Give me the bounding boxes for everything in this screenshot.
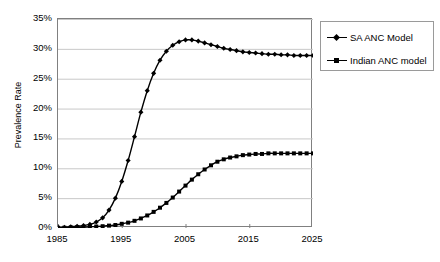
series-line	[58, 40, 313, 228]
legend-marker-diamond-icon	[327, 33, 347, 43]
data-point-marker	[139, 216, 143, 220]
x-tick-label: 1995	[96, 233, 146, 244]
data-point-marker	[285, 52, 290, 57]
data-point-marker	[291, 53, 296, 58]
data-point-marker	[247, 153, 251, 157]
data-point-marker	[196, 39, 201, 44]
data-point-marker	[69, 225, 73, 228]
data-point-marker	[158, 206, 162, 210]
legend-label: SA ANC Model	[350, 32, 413, 43]
data-point-marker	[75, 225, 79, 228]
data-point-marker	[203, 167, 207, 171]
data-point-marker	[126, 221, 130, 225]
series-sa-anc-model	[58, 37, 313, 228]
data-point-marker	[133, 219, 137, 223]
data-point-marker	[310, 53, 313, 58]
data-point-marker	[272, 52, 277, 57]
data-point-marker	[241, 153, 245, 157]
data-point-marker	[62, 226, 66, 228]
prevalence-rate-line-chart: Prevalence Rate 0%5%10%15%20%25%30%35% 1…	[0, 0, 440, 262]
data-point-marker	[215, 44, 220, 49]
data-point-marker	[254, 152, 258, 156]
data-point-marker	[132, 134, 137, 139]
data-point-marker	[221, 46, 226, 51]
data-point-marker	[107, 224, 111, 228]
data-point-marker	[138, 110, 143, 115]
data-point-marker	[311, 151, 313, 155]
data-point-marker	[164, 201, 168, 205]
x-tick-label: 2005	[160, 233, 210, 244]
data-point-marker	[189, 37, 194, 42]
data-point-marker	[259, 51, 264, 56]
data-point-marker	[152, 210, 156, 214]
data-point-marker	[209, 163, 213, 167]
series-indian-anc-model	[58, 151, 313, 228]
data-point-marker	[184, 184, 188, 188]
legend-item-indian-anc-model: Indian ANC model	[327, 55, 427, 66]
chart-legend: SA ANC Model Indian ANC model	[320, 21, 434, 71]
data-point-marker	[177, 190, 181, 194]
data-point-marker	[88, 225, 92, 228]
data-point-marker	[101, 224, 105, 228]
data-point-marker	[273, 151, 277, 155]
data-point-marker	[58, 226, 60, 228]
data-point-marker	[279, 151, 283, 155]
series-line	[58, 153, 313, 227]
data-point-marker	[126, 158, 131, 163]
data-point-marker	[94, 225, 98, 228]
data-point-marker	[177, 39, 182, 44]
data-point-marker	[298, 53, 303, 58]
data-point-marker	[298, 151, 302, 155]
data-point-marker	[228, 47, 233, 52]
data-point-marker	[113, 223, 117, 227]
data-point-marker	[266, 151, 270, 155]
data-point-marker	[247, 50, 252, 55]
data-point-marker	[190, 178, 194, 182]
data-point-marker	[305, 151, 309, 155]
data-point-marker	[304, 53, 309, 58]
data-point-marker	[253, 50, 258, 55]
legend-label: Indian ANC model	[350, 55, 427, 66]
data-point-marker	[196, 172, 200, 176]
data-point-marker	[113, 196, 118, 201]
data-point-marker	[202, 40, 207, 45]
legend-marker-square-icon	[327, 56, 347, 66]
data-point-marker	[292, 151, 296, 155]
plot-area	[57, 18, 312, 227]
data-point-marker	[145, 213, 149, 217]
data-point-marker	[82, 225, 86, 228]
data-point-marker	[228, 156, 232, 160]
data-point-marker	[145, 88, 150, 93]
data-point-marker	[120, 222, 124, 226]
data-point-marker	[151, 71, 156, 76]
data-point-marker	[171, 196, 175, 200]
data-point-marker	[286, 151, 290, 155]
data-point-marker	[279, 52, 284, 57]
x-tick-label: 2015	[223, 233, 273, 244]
x-tick-label: 1985	[32, 233, 82, 244]
data-point-marker	[266, 52, 271, 57]
data-point-marker	[215, 160, 219, 164]
data-point-marker	[119, 179, 124, 184]
data-point-marker	[208, 42, 213, 47]
data-point-marker	[222, 157, 226, 161]
data-point-marker	[235, 154, 239, 158]
data-point-marker	[260, 152, 264, 156]
data-point-marker	[94, 219, 99, 224]
legend-item-sa-anc-model: SA ANC Model	[327, 32, 413, 43]
x-tick-label: 2025	[287, 233, 337, 244]
plot-canvas	[58, 19, 313, 228]
data-point-marker	[240, 49, 245, 54]
data-point-marker	[183, 37, 188, 42]
